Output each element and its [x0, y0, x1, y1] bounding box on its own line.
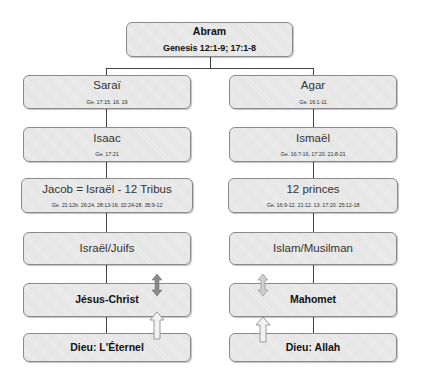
double-arrow-icon	[258, 274, 268, 296]
node-islam-musilman: Islam/Musilman	[229, 232, 397, 265]
double-arrow-icon	[152, 274, 162, 296]
node-reference: Ge. 17:21	[95, 151, 118, 157]
node-title: Ismaël	[296, 132, 330, 145]
node-reference: Ge. 17:15. 16. 19	[87, 99, 128, 105]
connector-left-5	[106, 317, 107, 333]
node-title: Saraï	[93, 79, 121, 92]
node-dieu-eternel: Dieu: L'Éternel	[23, 333, 191, 362]
node-title: Jacob = Israël - 12 Tribus	[42, 183, 171, 196]
connector-left-3	[106, 213, 107, 232]
node-mahomet: Mahomet	[229, 283, 397, 317]
node-title: 12 princes	[286, 183, 339, 196]
connector-right-1	[313, 109, 314, 127]
node-title: Mahomet	[290, 294, 336, 306]
node-title: Jésus-Christ	[75, 294, 139, 306]
connector-left-1	[106, 109, 107, 127]
node-title: Israël/Juifs	[80, 242, 135, 255]
node-israel-juifs: Israël/Juifs	[23, 232, 191, 265]
connector-root-down	[210, 57, 211, 68]
node-title: Dieu: L'Éternel	[70, 342, 144, 354]
connector-horizontal	[106, 68, 314, 69]
node-jesus-christ: Jésus-Christ	[23, 283, 191, 317]
node-reference: Ge. 16:9-12. 21:12. 13. 17:20. 25:12-18	[267, 202, 360, 208]
node-title: Abram	[193, 26, 226, 38]
connector-right-4	[313, 265, 314, 283]
node-title: Islam/Musilman	[273, 242, 353, 255]
node-12-princes: 12 princes Ge. 16:9-12. 21:12. 13. 17:20…	[228, 178, 398, 213]
node-title: Dieu: Allah	[286, 342, 340, 354]
connector-right-5	[313, 317, 314, 333]
node-abram: Abram Genesis 12:1-9; 17:1-8	[126, 22, 293, 57]
node-agar: Agar Ge. 16:1-11	[229, 75, 397, 109]
up-arrow-icon	[149, 311, 165, 340]
up-arrow-icon	[255, 316, 271, 343]
node-reference: Ge. 21:12b. 26:24. 28:13-16. 32:24-28. 3…	[52, 202, 163, 208]
node-title: Agar	[301, 79, 325, 92]
connector-right-2	[313, 162, 314, 178]
connector-left-4	[106, 265, 107, 283]
node-sarai: Saraï Ge. 17:15. 16. 19	[23, 75, 191, 109]
node-reference: Genesis 12:1-9; 17:1-8	[163, 43, 256, 53]
node-ismael: Ismaël Ge. 16:7-16. 17:20. 21:8-21	[229, 127, 397, 162]
connector-right-3	[313, 213, 314, 232]
node-reference: Ge. 16:7-16. 17:20. 21:8-21	[281, 151, 346, 157]
node-isaac: Isaac Ge. 17:21	[23, 127, 191, 162]
node-reference: Ge. 16:1-11	[299, 99, 327, 105]
node-jacob: Jacob = Israël - 12 Tribus Ge. 21:12b. 2…	[21, 178, 193, 213]
connector-left-2	[106, 162, 107, 178]
node-title: Isaac	[93, 132, 121, 145]
